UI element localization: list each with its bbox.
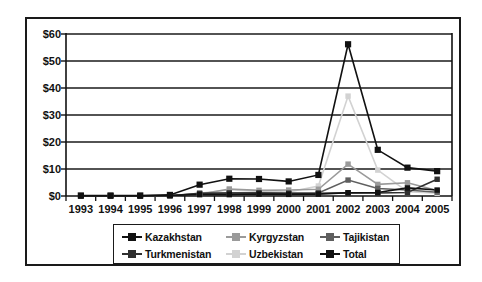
series-marker	[345, 93, 350, 98]
series-marker	[197, 192, 202, 197]
series-marker	[434, 168, 440, 174]
legend-label: Tajikistan	[343, 231, 389, 243]
series-marker	[256, 191, 261, 196]
legend-marker-icon	[320, 248, 340, 259]
x-tick-label: 2000	[276, 203, 300, 215]
series-marker	[345, 177, 350, 182]
series-marker	[227, 192, 232, 197]
series-line	[81, 44, 437, 195]
series-marker	[405, 185, 410, 190]
series-marker	[375, 190, 380, 195]
legend-label: Uzbekistan	[249, 248, 303, 260]
legend-item[interactable]: Kyrgyzstan	[226, 231, 320, 243]
series-marker	[345, 161, 350, 166]
x-tick-label: 1998	[217, 203, 241, 215]
series-marker	[315, 172, 321, 178]
y-axis-tick-labels: $0$10$20$30$40$50$60	[43, 28, 61, 202]
series-marker	[286, 178, 292, 184]
legend-item[interactable]: Uzbekistan	[226, 248, 320, 260]
series-marker	[107, 192, 113, 198]
series-marker	[345, 190, 350, 195]
series-marker	[375, 167, 380, 172]
y-tick-label: $30	[43, 109, 61, 121]
series-marker	[78, 192, 84, 198]
legend-item[interactable]: Tajikistan	[320, 231, 404, 243]
x-tick-label: 1993	[69, 203, 93, 215]
series-marker	[286, 192, 291, 197]
series-marker	[405, 180, 410, 185]
x-tick-label: 2003	[366, 203, 390, 215]
x-tick-label: 1999	[247, 203, 271, 215]
x-tick-label: 2004	[395, 203, 420, 215]
legend-marker-icon	[320, 231, 340, 242]
x-tick-label: 1996	[158, 203, 182, 215]
x-tick-label: 1994	[98, 203, 123, 215]
series-marker	[375, 147, 381, 153]
legend-label: Kyrgyzstan	[249, 231, 304, 243]
legend-marker-icon	[122, 248, 142, 259]
series-marker	[137, 192, 143, 198]
legend-marker-icon	[226, 248, 246, 259]
y-tick-label: $20	[43, 136, 61, 148]
x-tick-label: 2001	[306, 203, 330, 215]
y-tick-label: $0	[49, 190, 61, 202]
legend-marker-icon	[122, 231, 142, 242]
x-axis-tick-labels: 1993199419951996199719981999200020012002…	[69, 203, 450, 215]
series-marker	[197, 182, 203, 188]
series-marker	[434, 177, 439, 182]
legend-item[interactable]: Total	[320, 248, 404, 260]
chart-figure: $0$10$20$30$40$50$60 1993199419951996199…	[0, 0, 482, 282]
x-tick-label: 2002	[336, 203, 360, 215]
series-marker	[256, 176, 262, 182]
x-tick-label: 2005	[425, 203, 449, 215]
x-tick-label: 1997	[187, 203, 211, 215]
data-series-layer	[78, 41, 441, 198]
chart-legend: KazakhstanKyrgyzstanTajikistanTurkmenist…	[113, 224, 400, 264]
series-marker	[316, 191, 321, 196]
legend-marker-icon	[226, 231, 246, 242]
legend-label: Kazakhstan	[145, 231, 202, 243]
series-marker	[434, 187, 439, 192]
series-marker	[404, 165, 410, 171]
legend-item[interactable]: Kazakhstan	[122, 231, 226, 243]
series-marker	[226, 176, 232, 182]
series-marker	[345, 41, 351, 47]
y-tick-label: $10	[43, 163, 61, 175]
legend-label: Total	[343, 248, 367, 260]
x-tick-label: 1995	[128, 203, 152, 215]
gridlines	[66, 34, 452, 169]
y-tick-label: $60	[43, 28, 61, 40]
legend-item[interactable]: Turkmenistan	[122, 248, 226, 260]
legend-label: Turkmenistan	[145, 248, 211, 260]
series-marker	[167, 192, 173, 198]
y-tick-label: $40	[43, 82, 61, 94]
y-tick-label: $50	[43, 55, 61, 67]
